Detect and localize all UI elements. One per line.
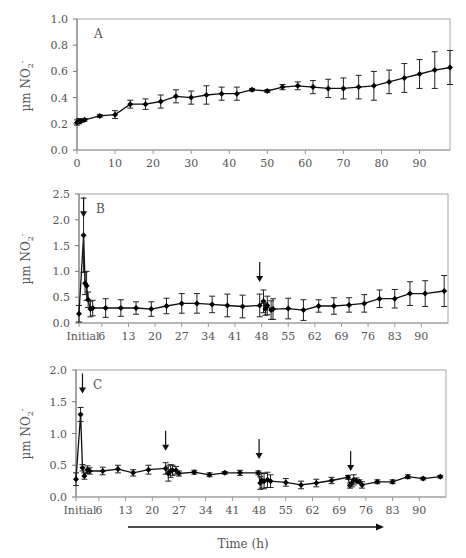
y-tick-label: 0.6 [51, 65, 69, 78]
data-point-marker [283, 479, 289, 485]
y-tick-label: 2.0 [50, 364, 68, 377]
x-tick-label: 10 [108, 157, 122, 170]
x-tick-label: 50 [260, 157, 274, 170]
data-point-marker [73, 476, 79, 482]
y-axis-title: µm NO2- [18, 233, 35, 284]
data-point-marker [313, 480, 319, 486]
data-point-marker [325, 85, 331, 91]
data-point-marker [158, 99, 164, 105]
data-point-marker [249, 87, 255, 93]
y-tick-label: 0.0 [50, 491, 68, 504]
figure-canvas: 0.00.20.40.60.81.00102030405060708090Aµm… [0, 0, 466, 558]
data-point-marker [361, 300, 367, 306]
data-point-marker [331, 303, 337, 309]
data-point-marker [115, 466, 121, 472]
data-point-marker [145, 467, 151, 473]
y-axis-title: µm NO2- [18, 60, 35, 111]
y-tick-label: 2.0 [53, 214, 71, 227]
data-point-marker [133, 305, 139, 311]
arrow-head-icon [347, 465, 354, 471]
arrow-head-icon [80, 211, 87, 217]
y-tick-label: 1.5 [50, 396, 68, 409]
data-point-marker [356, 84, 362, 90]
x-tick-label: 70 [336, 157, 350, 170]
data-point-marker [422, 291, 428, 297]
x-tick-label: 20 [148, 330, 162, 343]
x-tick-label: 60 [298, 157, 312, 170]
x-tick-label: 83 [386, 504, 400, 517]
x-tick-label: Initial [64, 504, 97, 517]
panel-a: 0.00.20.40.60.81.00102030405060708090Aµm… [18, 13, 453, 170]
data-point-marker [298, 482, 304, 488]
data-point-marker [285, 306, 291, 312]
data-point-marker [219, 91, 225, 97]
data-point-marker [209, 301, 215, 307]
x-tick-label: 48 [252, 504, 266, 517]
x-tick-label: 20 [145, 504, 159, 517]
plot-frame [77, 19, 450, 150]
y-tick-label: 1.0 [51, 13, 69, 26]
x-tick-label: 55 [281, 330, 295, 343]
data-point-marker [203, 92, 209, 98]
x-tick-label: 48 [255, 330, 269, 343]
data-point-marker [280, 84, 286, 90]
data-point-marker [386, 79, 392, 85]
y-tick-label: 0.0 [51, 144, 69, 157]
y-axis-title: µm NO2- [18, 408, 35, 459]
y-tick-label: 0.0 [53, 317, 71, 330]
data-point-marker [240, 303, 246, 309]
data-point-marker [224, 302, 230, 308]
x-tick-label: 6 [98, 330, 105, 343]
arrow-head-icon [256, 276, 263, 282]
data-point-marker [437, 474, 443, 480]
data-point-marker [392, 296, 398, 302]
panel-label: A [93, 27, 103, 41]
x-tick-label: 41 [225, 504, 239, 517]
time-arrow-head-icon [376, 524, 384, 531]
plot-frame [76, 370, 446, 497]
data-point-marker [100, 468, 106, 474]
y-tick-label: 1.5 [53, 240, 71, 253]
y-tick-label: 0.5 [53, 291, 71, 304]
data-point-marker [234, 91, 240, 97]
data-point-marker [346, 302, 352, 308]
x-tick-label: 80 [374, 157, 388, 170]
data-point-marker [143, 101, 149, 107]
arrow-head-icon [79, 387, 86, 393]
data-point-marker [316, 303, 322, 309]
x-tick-label: 76 [359, 504, 373, 517]
x-tick-label: 90 [412, 504, 426, 517]
data-point-marker [340, 85, 346, 91]
data-point-marker [310, 84, 316, 90]
data-point-marker [295, 83, 301, 89]
x-tick-label: 62 [308, 330, 322, 343]
data-point-marker [300, 307, 306, 313]
data-point-marker [194, 300, 200, 306]
data-point-marker [97, 113, 103, 119]
x-tick-label: 69 [332, 504, 346, 517]
x-tick-label: 41 [228, 330, 242, 343]
x-tick-label: 27 [175, 330, 189, 343]
y-tick-label: 1.0 [53, 265, 71, 278]
data-point-marker [78, 411, 84, 417]
x-tick-label: 62 [305, 504, 319, 517]
x-tick-label: 0 [74, 157, 81, 170]
x-tick-label: 90 [413, 157, 427, 170]
x-tick-label: 34 [201, 330, 215, 343]
panel-b: 0.00.51.01.52.02.5Initial613202734414855… [18, 188, 448, 343]
data-point-marker [130, 470, 136, 476]
data-point-marker [371, 83, 377, 89]
data-point-marker [103, 305, 109, 311]
x-axis-title: Time (h) [217, 537, 268, 551]
x-tick-label: 83 [388, 330, 402, 343]
x-tick-label: 20 [146, 157, 160, 170]
data-point-marker [377, 296, 383, 302]
arrow-head-icon [162, 445, 169, 451]
data-point-marker [329, 477, 335, 483]
panel-c: 0.00.51.01.52.0Initial613202734414855626… [18, 364, 446, 517]
data-point-marker [407, 291, 413, 297]
time-axis-annotation: Time (h) [128, 524, 384, 552]
x-tick-label: 69 [334, 330, 348, 343]
data-point-marker [441, 288, 447, 294]
data-point-marker [401, 75, 407, 81]
